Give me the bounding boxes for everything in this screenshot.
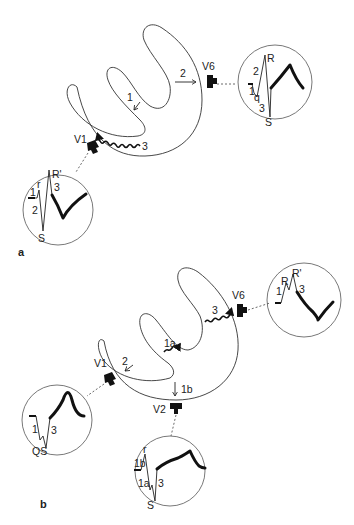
lead-connector-v1-a — [76, 153, 88, 172]
v6b-label-1: 1 — [276, 285, 282, 297]
v6b-label-rprime: R' — [292, 267, 302, 279]
panel-a: 1 2 3 V1 1 r R' 2 3 S V6 R 2 1 q 3 — [18, 25, 312, 258]
electrode-v6-b-icon — [237, 304, 247, 317]
arrow-label-1: 1 — [127, 91, 133, 103]
lead-connector-v2-b — [171, 415, 176, 436]
lead-label-v1-b: V1 — [94, 357, 107, 369]
ecg-trace-v1-b — [36, 416, 50, 448]
v6-label-r: R — [267, 52, 275, 64]
v6b-label-3: 3 — [299, 283, 305, 295]
arrow-label-1b: 1b — [181, 383, 193, 395]
arrow-label-3: 3 — [142, 140, 148, 152]
lead-connector-v1-b — [87, 384, 104, 396]
panel-label-a: a — [18, 246, 25, 258]
arrow-label-2: 2 — [180, 67, 186, 79]
ecg-trace-v1-a — [33, 170, 52, 231]
v2-label-1b: 1b — [134, 457, 146, 469]
v1b-label-1: 1 — [32, 423, 38, 435]
v2-label-s: S — [147, 499, 154, 511]
lead-label-v6-a: V6 — [202, 60, 215, 72]
v6-label-3: 3 — [259, 102, 265, 114]
v6b-label-r: R — [281, 275, 289, 287]
v2-label-r: r — [143, 443, 147, 455]
electrode-v1-b-icon — [104, 372, 116, 386]
v1-label-3: 3 — [54, 181, 60, 193]
lead-label-v1-a: V1 — [74, 133, 87, 145]
electrode-v2-icon — [170, 403, 182, 414]
panel-label-b: b — [40, 498, 47, 510]
arrow-1-icon — [134, 102, 140, 110]
ecg-st-t-v1-a — [52, 194, 86, 218]
panel-b: 3 1a 2 1b V1 1 3 QS V2 r 1b 1a 3 — [22, 263, 341, 511]
lead-label-v6-b: V6 — [232, 289, 245, 301]
lead-connector-v6-b — [248, 303, 270, 310]
ecg-conduction-diagram: 1 2 3 V1 1 r R' 2 3 S V6 R 2 1 q 3 — [0, 0, 354, 525]
heart-ventricles-outline-a — [67, 25, 202, 156]
v1-label-rprime: R' — [52, 168, 62, 180]
ecg-st-t-v6-a — [271, 65, 303, 88]
v6-label-s: S — [265, 116, 272, 128]
v1-label-2: 2 — [32, 204, 38, 216]
v6-label-2: 2 — [253, 65, 259, 77]
v2-label-3: 3 — [158, 477, 164, 489]
v1-label-r: r — [37, 178, 41, 190]
electrode-v1-icon — [87, 140, 99, 154]
v1b-label-qs: QS — [32, 445, 47, 457]
v1b-label-3: 3 — [51, 424, 57, 436]
ecg-st-t-v2-b — [157, 451, 205, 469]
lead-label-v2-b: V2 — [153, 403, 166, 415]
ecg-st-t-v1-b — [50, 393, 84, 419]
v2-label-1a: 1a — [138, 477, 150, 489]
v1-label-1: 1 — [30, 186, 36, 198]
electrode-v6-icon — [207, 75, 217, 88]
ecg-st-t-v6-b — [297, 292, 333, 320]
wavy-arrow-3-icon — [205, 314, 233, 322]
arrow-label-1a: 1a — [164, 337, 176, 349]
v1-label-s: S — [38, 232, 45, 244]
heart-ventricles-outline-b — [98, 268, 238, 400]
arrow-label-2-b: 2 — [122, 355, 128, 367]
arrow-label-3-b: 3 — [212, 304, 218, 316]
